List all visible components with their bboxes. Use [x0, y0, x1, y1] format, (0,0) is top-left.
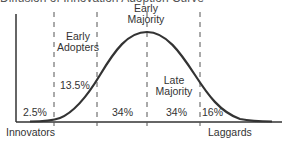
pct-innovators: 2.5% [23, 106, 47, 118]
pct-late-majority: 34% [166, 106, 187, 118]
pct-early-adopters: 13.5% [60, 79, 90, 91]
label-late-majority: Late Majority [150, 75, 198, 97]
label-early-adopters-line2: Adopters [56, 42, 100, 53]
label-innovators: Innovators [6, 127, 55, 138]
pct-early-majority: 34% [112, 106, 133, 118]
label-early-adopters: Early Adopters [56, 31, 100, 53]
pct-laggards: 16% [202, 106, 223, 118]
label-early-majority: Early Majority [110, 3, 182, 25]
label-late-majority-line2: Majority [150, 86, 198, 97]
label-laggards: Laggards [208, 127, 252, 138]
label-early-majority-line2: Majority [110, 14, 182, 25]
